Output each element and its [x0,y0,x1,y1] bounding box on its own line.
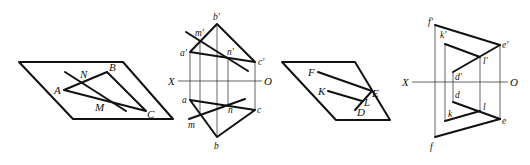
label-K: K [317,85,326,97]
triangle-abc [64,72,146,111]
label-M: M [94,101,105,113]
figure-3-plane-lines: F K E L D [282,62,390,120]
label-X: X [401,76,410,88]
label-e: e [502,116,506,126]
label-b-prime: b′ [213,12,221,22]
diagram-canvas: A B C N M X O b′ a′ c′ m′ n′ a c b m n [0,0,530,165]
label-m-prime: m′ [195,28,205,38]
label-n: n [228,105,233,115]
label-N: N [79,68,88,80]
label-C: C [147,108,155,120]
label-d: d [455,90,460,100]
label-O: O [264,75,272,87]
label-b: b [214,141,219,151]
label-a: a [182,95,187,105]
label-B: B [109,61,116,73]
label-f: f [430,142,434,152]
label-l: l [483,102,486,112]
label-f-prime: f′ [428,17,434,27]
label-l-prime: l′ [483,56,489,66]
figure-4-projections-frame: X O f′ k′ e′ l′ d′ d k l e f [401,17,518,152]
line-kl-front [445,44,480,57]
figure-1-plane-triangle: A B C N M [19,61,173,120]
label-k: k [448,109,453,119]
label-c-prime: c′ [258,57,265,67]
label-D: D [356,106,365,118]
label-F: F [307,66,315,78]
label-m: m [188,120,195,130]
figure-2-projections-abc: X O b′ a′ c′ m′ n′ a c b m n [167,12,272,151]
label-E: E [371,87,379,99]
label-e-prime: e′ [502,40,509,50]
label-X: X [167,75,176,87]
label-O: O [510,76,518,88]
label-n-prime: n′ [227,47,235,57]
label-A: A [53,84,61,96]
label-c: c [257,105,262,115]
label-a-prime: a′ [180,48,188,58]
label-k-prime: k′ [440,30,447,40]
line-kl [328,91,362,101]
label-d-prime: d′ [455,72,463,82]
